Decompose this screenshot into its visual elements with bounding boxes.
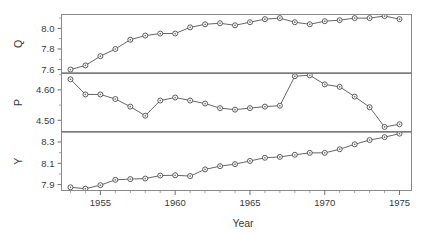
chart-root: 7.67.88.0Q4.504.60P7.98.18.3Y 1955196019… <box>0 0 425 234</box>
x-tick-label-3: 1970 <box>314 197 335 208</box>
panel-P: 4.504.60P <box>12 73 412 132</box>
data-point-center <box>369 106 371 108</box>
series-line-Y <box>70 134 399 189</box>
data-point-center <box>115 98 117 100</box>
data-point-center <box>399 123 401 125</box>
series-P <box>68 73 402 130</box>
data-point-center <box>264 157 266 159</box>
data-point-center <box>354 96 356 98</box>
data-point-center <box>204 103 206 105</box>
data-point-center <box>279 105 281 107</box>
x-tick-label-0: 1955 <box>90 197 111 208</box>
data-point-center <box>85 188 87 190</box>
x-axis-layer: 19551960196519701975 <box>70 191 410 208</box>
x-tick-label-4: 1975 <box>389 197 410 208</box>
data-point-center <box>399 133 401 135</box>
data-point-center <box>100 55 102 57</box>
data-point-center <box>144 178 146 180</box>
panel-label-Y: Y <box>12 158 24 165</box>
data-point-center <box>174 174 176 176</box>
data-point-center <box>159 175 161 177</box>
data-point-center <box>279 156 281 158</box>
y-tick-label-P-1: 4.60 <box>36 84 55 95</box>
x-tick-label-1: 1960 <box>165 197 186 208</box>
panels-layer: 7.67.88.0Q4.504.60P7.98.18.3Y <box>12 14 412 192</box>
data-point-center <box>279 17 281 19</box>
data-point-center <box>234 109 236 111</box>
data-point-center <box>294 75 296 77</box>
data-point-center <box>189 100 191 102</box>
x-axis-title: Year <box>232 217 254 229</box>
data-point-center <box>309 74 311 76</box>
data-point-center <box>354 143 356 145</box>
data-point-center <box>324 20 326 22</box>
series-Y <box>68 131 402 191</box>
data-point-center <box>234 163 236 165</box>
data-point-center <box>219 165 221 167</box>
data-point-center <box>264 18 266 20</box>
data-point-center <box>384 15 386 17</box>
panel-label-P: P <box>12 99 24 106</box>
data-point-center <box>249 21 251 23</box>
data-point-center <box>309 152 311 154</box>
data-point-center <box>189 27 191 29</box>
data-point-center <box>100 94 102 96</box>
panel-frame-P <box>62 73 412 132</box>
data-point-center <box>339 148 341 150</box>
data-point-center <box>399 18 401 20</box>
data-point-center <box>264 106 266 108</box>
multi-panel-line-chart: 7.67.88.0Q4.504.60P7.98.18.3Y 1955196019… <box>0 0 425 234</box>
data-point-center <box>234 24 236 26</box>
data-point-center <box>294 154 296 156</box>
data-point-center <box>219 107 221 109</box>
data-point-center <box>174 97 176 99</box>
series-Q <box>68 14 402 73</box>
data-point-center <box>189 175 191 177</box>
data-point-center <box>249 160 251 162</box>
data-point-center <box>324 84 326 86</box>
data-point-center <box>144 115 146 117</box>
data-point-center <box>70 78 72 80</box>
data-point-center <box>174 33 176 35</box>
panel-Y: 7.98.18.3Y <box>12 131 412 191</box>
panel-label-Q: Q <box>12 40 24 48</box>
data-point-center <box>204 23 206 25</box>
data-point-center <box>324 152 326 154</box>
data-point-center <box>85 94 87 96</box>
data-point-center <box>159 33 161 35</box>
data-point-center <box>384 136 386 138</box>
data-point-center <box>249 107 251 109</box>
y-tick-label-Y-2: 8.3 <box>41 136 54 147</box>
y-tick-label-Y-1: 8.1 <box>41 158 54 169</box>
data-point-center <box>369 139 371 141</box>
data-point-center <box>129 39 131 41</box>
data-point-center <box>159 100 161 102</box>
data-point-center <box>70 69 72 71</box>
data-point-center <box>204 169 206 171</box>
data-point-center <box>115 179 117 181</box>
series-line-P <box>70 75 399 127</box>
data-point-center <box>309 23 311 25</box>
x-tick-label-2: 1965 <box>239 197 260 208</box>
data-point-center <box>100 184 102 186</box>
data-point-center <box>129 178 131 180</box>
y-tick-label-Y-0: 7.9 <box>41 179 54 190</box>
data-point-center <box>70 186 72 188</box>
data-point-center <box>369 17 371 19</box>
data-point-center <box>115 48 117 50</box>
data-point-center <box>384 126 386 128</box>
data-point-center <box>339 86 341 88</box>
panel-Q: 7.67.88.0Q <box>12 14 412 75</box>
y-tick-label-Q-0: 7.6 <box>41 64 54 75</box>
data-point-center <box>339 19 341 21</box>
y-tick-label-P-0: 4.50 <box>36 115 55 126</box>
data-point-center <box>85 65 87 67</box>
data-point-center <box>144 35 146 37</box>
y-tick-label-Q-1: 7.8 <box>41 43 54 54</box>
y-tick-label-Q-2: 8.0 <box>41 23 54 34</box>
data-point-center <box>294 21 296 23</box>
data-point-center <box>129 106 131 108</box>
data-point-center <box>354 17 356 19</box>
data-point-center <box>219 22 221 24</box>
